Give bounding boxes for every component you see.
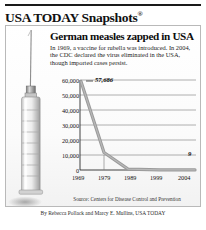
masthead-title: USA TODAY Snapshots® [5,6,201,25]
x-tick-1979: 1979 [98,174,110,181]
registered-trademark-icon: ® [137,10,142,18]
y-tick-50000: 50,000 [48,92,79,99]
page-title: German measles zapped in USA [50,30,200,42]
masthead: USA TODAY Snapshots® [5,4,201,25]
x-tick-1969: 1969 [72,174,84,181]
chart-gridlines [80,80,196,155]
x-tick-1999: 1999 [150,174,162,181]
y-tick-40000: 40,000 [48,107,79,114]
x-tick-1989: 1989 [124,174,136,181]
byline: By Rebecca Pollack and Marcy E. Mullins,… [5,210,201,216]
usa-today-snapshot: USA TODAY Snapshots® [0,0,206,230]
data-label-1969: 57,686 [95,76,113,83]
y-tick-20000: 20,000 [48,137,79,144]
snapshot-panel: German measles zapped in USA In 1969, a … [5,25,201,207]
x-tick-2004: 2004 [178,174,190,181]
syringe-icon [8,26,52,207]
masthead-title-text: USA TODAY Snapshots [5,10,137,25]
y-tick-30000: 30,000 [48,122,79,129]
data-label-2004: 9 [188,150,191,157]
y-tick-10000: 10,000 [48,152,79,159]
line-chart: 60,000 50,000 40,000 30,000 20,000 10,00… [50,74,200,186]
headline-block: German measles zapped in USA In 1969, a … [50,30,200,66]
y-tick-60000: 60,000 [48,77,79,84]
subhead-text: In 1969, a vaccine for rubella was intro… [50,44,196,66]
y-tick-0: 0 [48,167,79,174]
chart-source: Source: Centers for Disease Control and … [56,196,198,202]
